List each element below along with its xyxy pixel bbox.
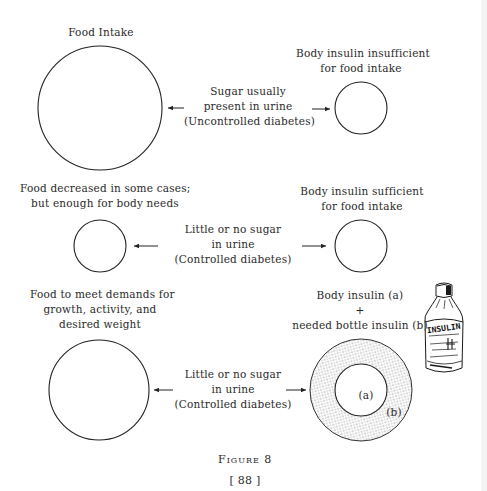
label-line: Little or no sugar: [174, 367, 292, 382]
label-line: present in urine: [184, 99, 312, 114]
label-line: (Uncontrolled diabetes): [184, 114, 312, 129]
label-line: Body insulin (a): [290, 288, 430, 303]
row-3-food-circle: [49, 340, 149, 440]
row-2-left-label: Food decreased in some cases; but enough…: [20, 181, 190, 211]
row-3-left-label: Food to meet demands for growth, activit…: [30, 287, 170, 332]
row-2-body-insulin-circle: [335, 220, 387, 272]
label-line: needed bottle insulin (b): [290, 318, 430, 333]
row-2-center-label: Little or no sugar in urine (Controlled …: [174, 222, 292, 267]
row-2-right-label: Body insulin sufficient for food intake: [300, 184, 424, 214]
row-1-right-label: Body insulin insufficient for food intak…: [296, 46, 426, 76]
label-line: +: [290, 303, 430, 318]
label-line: Little or no sugar: [174, 222, 292, 237]
label-line: (Controlled diabetes): [174, 252, 292, 267]
label-line: in urine: [174, 237, 292, 252]
page-number: [ 88 ]: [226, 473, 264, 488]
row-3-right-label: Body insulin (a) + needed bottle insulin…: [290, 288, 430, 333]
label-line: Food decreased in some cases;: [20, 181, 190, 196]
row-1-center-label: Sugar usually present in urine (Uncontro…: [184, 84, 312, 129]
label-line: Sugar usually: [184, 84, 312, 99]
row-3-center-label: Little or no sugar in urine (Controlled …: [174, 367, 292, 412]
insulin-bottle-icon: INSULIN: [425, 283, 463, 372]
inner-circle-label: (a): [354, 388, 378, 403]
label-line: for food intake: [300, 199, 424, 214]
label-line: Food Intake: [66, 25, 136, 40]
label-line: but enough for body needs: [20, 196, 190, 211]
page-edge: [481, 0, 487, 491]
row-1-left-label: Food Intake: [66, 25, 136, 40]
label-line: desired weight: [30, 317, 170, 332]
row-1-food-intake-circle: [38, 46, 162, 170]
label-line: Food to meet demands for: [30, 287, 170, 302]
outer-ring-label: (b): [382, 405, 406, 420]
row-2-food-circle: [74, 220, 126, 272]
figure-caption: Figure 8: [218, 453, 272, 466]
label-line: Body insulin insufficient: [296, 46, 426, 61]
label-line: growth, activity, and: [30, 302, 170, 317]
label-line: for food intake: [296, 61, 426, 76]
label-line: Body insulin sufficient: [300, 184, 424, 199]
label-line: (Controlled diabetes): [174, 397, 292, 412]
row-1-body-insulin-circle: [335, 82, 387, 134]
label-line: in urine: [174, 382, 292, 397]
